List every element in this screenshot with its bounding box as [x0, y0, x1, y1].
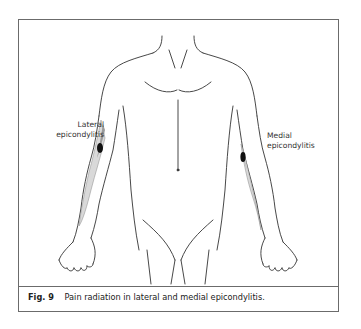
- figure-caption: Fig. 9 Pain radiation in lateral and med…: [28, 292, 265, 302]
- caption-divider: [19, 286, 338, 287]
- lateral-label-line1: Lateral: [40, 120, 104, 130]
- medial-pain-region: [240, 144, 261, 230]
- body-illustration: Lateral epicondylitis Medial epicondylit…: [19, 20, 338, 286]
- figure-frame: Lateral epicondylitis Medial epicondylit…: [18, 19, 339, 312]
- human-body-outline-icon: [19, 20, 338, 286]
- medial-epicondylitis-label: Medial epicondylitis: [267, 131, 337, 151]
- medial-label-line1: Medial: [267, 131, 337, 141]
- lateral-label-line2: epicondylitis: [40, 130, 104, 140]
- lateral-epicondylitis-label: Lateral epicondylitis: [40, 120, 104, 140]
- medial-label-line2: epicondylitis: [267, 141, 337, 151]
- figure-number: Fig. 9: [28, 292, 54, 302]
- caption-text: Pain radiation in lateral and medial epi…: [65, 292, 265, 302]
